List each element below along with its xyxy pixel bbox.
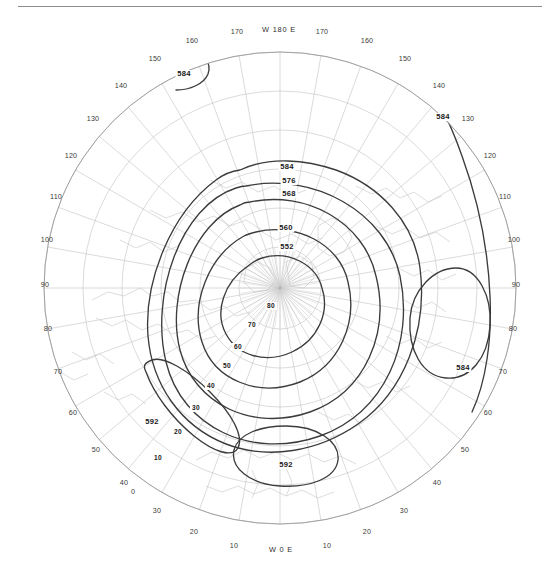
longitude-tick-label: 70 — [499, 367, 507, 376]
longitude-tick-label: 160 — [186, 36, 199, 45]
longitude-tick-label: 110 — [499, 192, 511, 201]
pole-spokes — [240, 248, 320, 328]
longitude-tick-label: 0 — [131, 487, 135, 496]
contour-value-labels: 5845765685605528070605040302010584584584… — [144, 69, 472, 469]
longitude-tick-label: 80 — [44, 324, 52, 333]
contour-label: 592 — [279, 460, 293, 469]
contour-592-bottom-ellipse — [233, 426, 338, 486]
contour-label: 50 — [223, 362, 231, 369]
longitude-tick-label: 80 — [509, 324, 517, 333]
longitude-tick-label: 50 — [461, 445, 469, 454]
longitude-tick-label: 10 — [323, 541, 331, 550]
longitude-tick-label: W 0 E — [269, 545, 293, 554]
contour-label: 576 — [282, 176, 296, 185]
longitude-tick-label: 50 — [92, 445, 100, 454]
longitude-tick-label: 150 — [399, 54, 412, 63]
contour-label: 592 — [145, 417, 159, 426]
contour-label: 10 — [154, 454, 162, 461]
contour-label: 80 — [267, 302, 275, 309]
pole-spoke — [281, 292, 286, 328]
pole-spoke — [284, 289, 320, 294]
contour-label: 60 — [234, 343, 242, 350]
figure-page: W 180 E170170160160150150140140130130120… — [0, 0, 559, 571]
longitude-tick-label: 130 — [462, 114, 475, 123]
longitude-tick-label: 90 — [512, 280, 520, 289]
longitude-tick-label: 30 — [153, 506, 161, 515]
contour-label: 70 — [248, 321, 256, 328]
longitude-tick-label: 40 — [433, 478, 441, 487]
longitude-tick-label: 120 — [484, 151, 497, 160]
longitude-tick-label: 40 — [120, 478, 128, 487]
contour-label: 40 — [207, 382, 215, 389]
longitude-tick-label: 10 — [230, 541, 238, 550]
pole-spoke — [281, 248, 286, 284]
polar-contour-chart: W 180 E170170160160150150140140130130120… — [0, 0, 559, 571]
longitude-tick-label: 60 — [69, 408, 77, 417]
longitude-tick-label: 120 — [65, 151, 78, 160]
longitude-tick-label: 130 — [87, 114, 100, 123]
longitude-tick-label: 100 — [508, 235, 521, 244]
contour-label: 584 — [436, 112, 450, 121]
contour-label: 584 — [280, 162, 294, 171]
north-pole-marker — [279, 287, 281, 289]
longitude-tick-label: 110 — [50, 192, 62, 201]
longitude-tick-label: 70 — [54, 367, 62, 376]
longitude-tick-label: 20 — [190, 527, 198, 536]
longitude-tick-label: 30 — [400, 506, 408, 515]
longitude-tick-label: 160 — [361, 36, 374, 45]
longitude-tick-label: 60 — [484, 408, 492, 417]
contour-584-upperright-arc — [410, 56, 490, 412]
longitude-tick-label: 140 — [115, 81, 128, 90]
longitude-tick-label: 170 — [316, 27, 329, 36]
longitude-tick-label: 90 — [41, 280, 49, 289]
longitude-tick-label: 100 — [41, 235, 54, 244]
pole-spoke — [240, 289, 276, 294]
contour-label: 584 — [456, 363, 470, 372]
contour-label: 20 — [174, 428, 182, 435]
longitude-tick-label: 150 — [149, 54, 162, 63]
longitude-tick-label: 170 — [231, 27, 244, 36]
contour-label: 560 — [279, 223, 293, 232]
longitude-tick-label: W 180 E — [262, 25, 296, 34]
contour-label: 30 — [192, 404, 200, 411]
longitude-tick-label: 140 — [433, 81, 446, 90]
longitude-tick-label: 20 — [363, 527, 371, 536]
contour-label: 568 — [282, 189, 296, 198]
contour-label: 552 — [280, 242, 294, 251]
contour-label: 584 — [177, 69, 191, 78]
